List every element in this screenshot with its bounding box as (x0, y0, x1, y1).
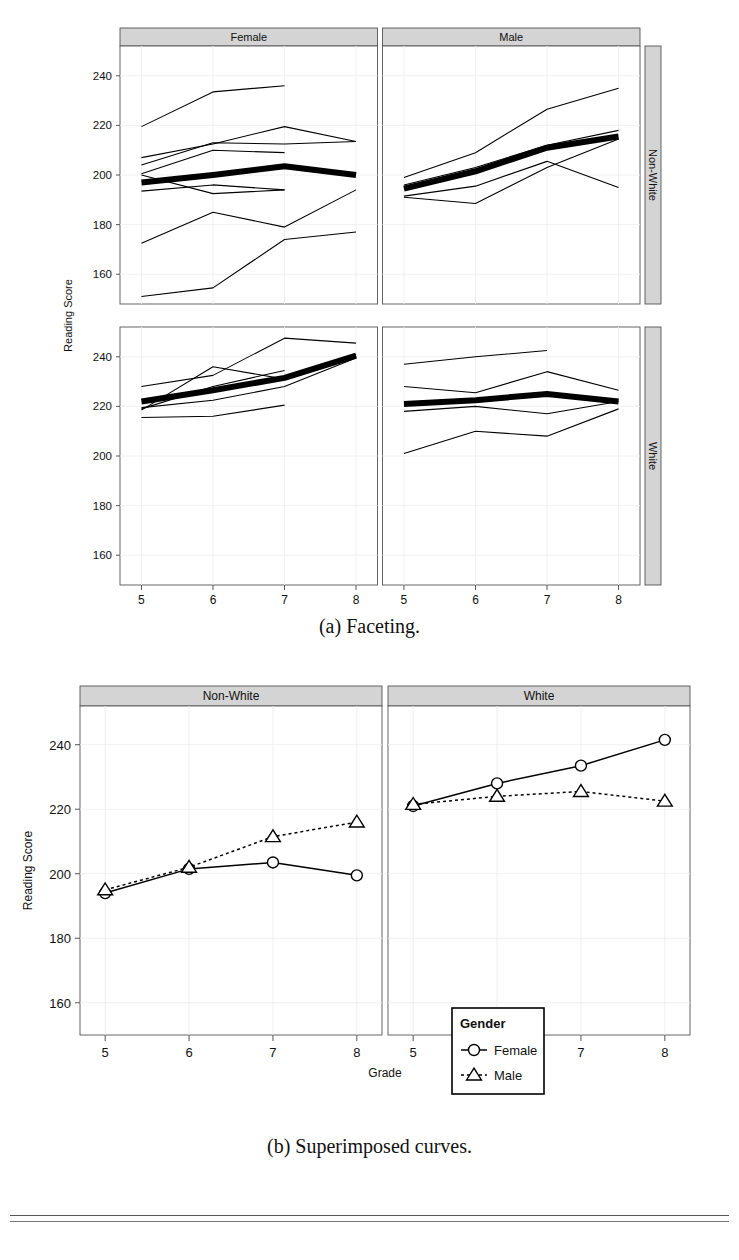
chart-superimposed: Non-WhiteWhite16018020022024056785678Gra… (0, 660, 739, 1130)
facet-row-strip-label: White (647, 442, 659, 470)
x-tick-label: 5 (138, 593, 145, 607)
marker-circle (575, 760, 586, 771)
y-tick-label: 220 (93, 400, 112, 412)
x-tick-label: 7 (269, 1045, 276, 1060)
y-tick-label: 200 (93, 169, 112, 181)
y-tick-label: 160 (93, 549, 112, 561)
y-tick-label: 180 (93, 500, 112, 512)
caption-superimposed: (b) Superimposed curves. (0, 1135, 739, 1158)
y-tick-label: 160 (49, 996, 71, 1011)
facet-col-strip-label: Male (499, 31, 523, 43)
marker-circle (267, 857, 278, 868)
y-axis-title: Reading Score (21, 830, 35, 910)
facet-row-strip-label: Non-White (647, 149, 659, 201)
x-axis-title: Grade (368, 1066, 402, 1080)
legend-entry-label[interactable]: Female (494, 1043, 537, 1058)
y-tick-label: 180 (93, 219, 112, 231)
marker-circle (469, 1045, 480, 1056)
x-tick-label: 6 (185, 1045, 192, 1060)
facet-col-strip-label: Non-White (203, 689, 260, 703)
chart-faceting: FemaleMaleNon-WhiteWhite1601802002202401… (0, 0, 739, 610)
x-tick-label: 8 (353, 593, 360, 607)
y-tick-label: 220 (49, 802, 71, 817)
marker-circle (659, 734, 670, 745)
y-tick-label: 200 (49, 867, 71, 882)
legend-title: Gender (460, 1016, 506, 1031)
y-tick-label: 180 (49, 931, 71, 946)
y-tick-label: 240 (49, 738, 71, 753)
x-tick-label: 6 (210, 593, 217, 607)
x-tick-label: 8 (615, 593, 622, 607)
x-tick-label: 6 (472, 593, 479, 607)
marker-circle (492, 778, 503, 789)
x-tick-label: 7 (281, 593, 288, 607)
x-tick-label: 5 (401, 593, 408, 607)
figure-container: FemaleMaleNon-WhiteWhite1601802002202401… (0, 0, 739, 1260)
x-tick-label: 7 (577, 1045, 584, 1060)
facet-panel (80, 706, 382, 1035)
facet-panel (388, 706, 690, 1035)
x-tick-label: 7 (544, 593, 551, 607)
caption-faceting: (a) Faceting. (0, 615, 739, 638)
x-tick-label: 8 (353, 1045, 360, 1060)
page-rule-bottom (10, 1221, 729, 1222)
y-tick-label: 220 (93, 119, 112, 131)
legend[interactable]: GenderFemaleMale (452, 1008, 544, 1094)
y-tick-label: 200 (93, 450, 112, 462)
marker-circle (351, 870, 362, 881)
x-tick-label: 5 (102, 1045, 109, 1060)
y-tick-label: 240 (93, 70, 112, 82)
y-tick-label: 240 (93, 351, 112, 363)
legend-entry-label[interactable]: Male (494, 1068, 522, 1083)
y-axis-title: Reading Score (62, 279, 74, 352)
y-tick-label: 160 (93, 268, 112, 280)
x-tick-label: 8 (661, 1045, 668, 1060)
facet-col-strip-label: White (524, 689, 555, 703)
x-tick-label: 5 (410, 1045, 417, 1060)
page-rule-top (10, 1215, 729, 1216)
facet-col-strip-label: Female (230, 31, 267, 43)
